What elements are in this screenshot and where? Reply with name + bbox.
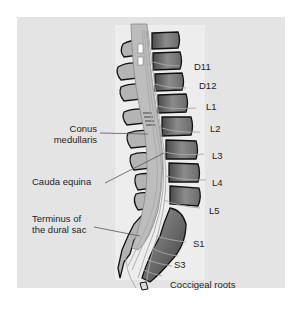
terminus-line2: the dural sac bbox=[32, 224, 86, 235]
label-coccigeal-roots: Coccigeal roots bbox=[170, 279, 235, 290]
label-l3: L3 bbox=[212, 150, 223, 161]
label-s3: S3 bbox=[174, 259, 186, 270]
label-terminus-dural-sac: Terminus of the dural sac bbox=[32, 213, 86, 235]
label-l4: L4 bbox=[212, 177, 223, 188]
label-l5: L5 bbox=[209, 205, 220, 216]
label-s1: S1 bbox=[193, 238, 205, 249]
conus-line2: medullaris bbox=[50, 134, 97, 145]
label-d12: D12 bbox=[199, 80, 216, 91]
label-conus-medullaris: Conus medullaris bbox=[50, 123, 97, 145]
label-cauda-equina: Cauda equina bbox=[32, 176, 91, 187]
label-d11: D11 bbox=[194, 61, 211, 72]
conus-line1: Conus bbox=[50, 123, 97, 134]
label-l1: L1 bbox=[206, 101, 217, 112]
spine-illustration bbox=[0, 0, 298, 309]
label-l2: L2 bbox=[210, 123, 221, 134]
terminus-line1: Terminus of bbox=[32, 213, 86, 224]
coccyx bbox=[140, 282, 148, 290]
